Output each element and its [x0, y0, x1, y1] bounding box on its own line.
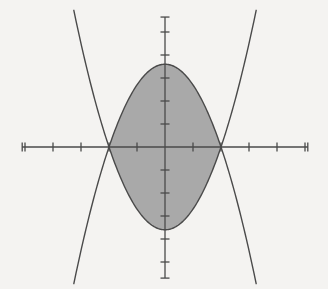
math-plot	[0, 0, 328, 289]
figure-container	[0, 0, 328, 289]
